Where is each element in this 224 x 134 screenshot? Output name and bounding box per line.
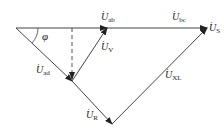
dot-accent: · [102,7,105,16]
label-u-r: ·UR [86,110,98,122]
dot-accent: · [102,37,105,46]
dot-accent: · [166,65,169,74]
label-u-v: ·UV [101,42,113,54]
label-u-s: ·US [209,23,220,35]
dot-accent: · [37,60,40,69]
dot-accent: · [173,7,176,16]
angle-arc-phi [32,28,38,43]
label-u-xl: ·UXL [165,70,182,82]
label-u-bc: ·Ubc [172,12,186,24]
label-u-ad: ·Uad [36,65,50,77]
label-u-ab: ·Uab [101,12,115,24]
phasor-u-xl [112,28,207,124]
dot-accent: · [87,105,90,114]
dot-accent: · [210,18,213,27]
angle-label-phi: φ [42,30,48,42]
